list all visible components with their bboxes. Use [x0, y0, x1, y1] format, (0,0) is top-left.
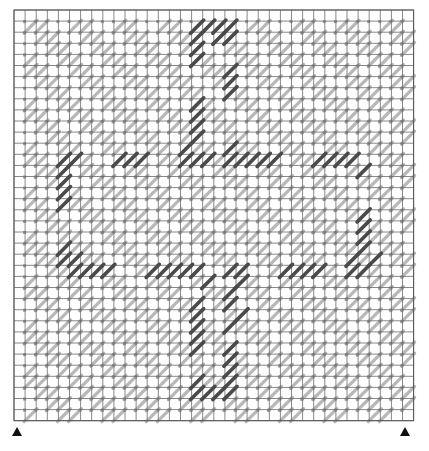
stitch-chart [0, 0, 429, 451]
left-marker-triangle-icon [12, 427, 22, 436]
right-marker-triangle-icon [400, 427, 410, 436]
